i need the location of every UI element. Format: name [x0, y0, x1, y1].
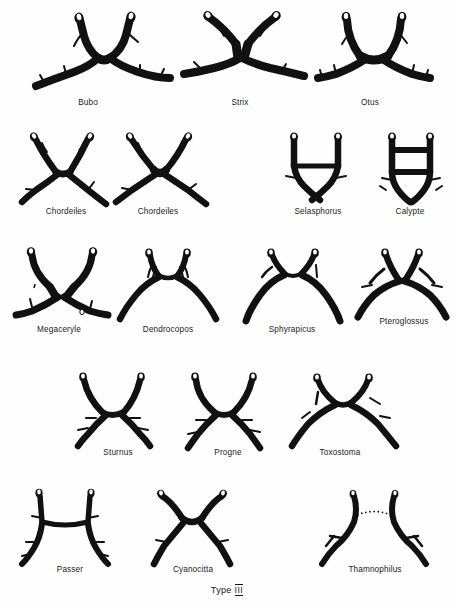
figure-label-toxostoma: Toxostoma — [298, 449, 382, 457]
plate-caption: TypeIII — [0, 586, 454, 595]
figure-passer — [14, 484, 124, 566]
figure-strix — [178, 6, 318, 94]
illustration-plate: Bubo Strix — [0, 0, 454, 604]
figure-cyanocitta — [140, 484, 250, 566]
figure-toxostoma — [288, 368, 408, 450]
figure-thamnophilus — [300, 484, 448, 566]
figure-label-progne: Progne — [190, 449, 266, 457]
figure-label-megaceryle: Megaceryle — [18, 326, 100, 334]
figure-label-selasphorus: Selasphorus — [278, 208, 358, 216]
figure-dendrocopos — [112, 243, 224, 325]
figure-label-pteroglossus: Pteroglossus — [360, 318, 448, 326]
figure-label-sturnus: Sturnus — [80, 449, 156, 457]
figure-otus — [312, 6, 436, 96]
figure-bubo — [22, 6, 177, 98]
figure-progne — [176, 368, 276, 450]
figure-sphyrapicus — [238, 243, 350, 325]
figure-pteroglossus — [352, 243, 452, 325]
figure-chordeiles-2 — [110, 128, 214, 208]
figure-label-cyanocitta: Cyanocitta — [152, 566, 234, 574]
figure-label-dendrocopos: Dendrocopos — [126, 326, 210, 334]
figure-sturnus — [66, 368, 166, 448]
figure-label-otus: Otus — [330, 99, 410, 107]
figure-label-calypte: Calypte — [374, 208, 446, 216]
figure-label-chordeiles-2: Chordeiles — [118, 208, 198, 216]
figure-calypte — [374, 128, 448, 208]
figure-selasphorus — [274, 128, 362, 208]
figure-label-bubo: Bubo — [48, 99, 128, 107]
figure-megaceryle — [12, 243, 116, 325]
figure-label-thamnophilus: Thamnophilus — [330, 566, 420, 574]
figure-label-passer: Passer — [32, 566, 108, 574]
figure-label-chordeiles-1: Chordeiles — [26, 208, 106, 216]
plate-caption-numeral: III — [235, 584, 244, 596]
figure-chordeiles-1 — [14, 128, 118, 208]
plate-caption-prefix: Type — [211, 585, 232, 595]
figure-label-strix: Strix — [200, 99, 280, 107]
figure-label-sphyrapicus: Sphyrapicus — [250, 326, 334, 334]
